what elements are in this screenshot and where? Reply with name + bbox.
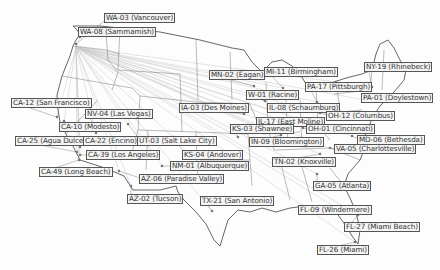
connection-lines [15, 18, 372, 250]
district-label[interactable]: FL-26 (Miami) [317, 245, 369, 255]
district-label[interactable]: OH-12 (Columbus) [326, 111, 395, 121]
district-label[interactable]: NV-04 (Las Vegas) [85, 109, 153, 119]
district-label[interactable]: WA-03 (Vancouver) [104, 13, 175, 23]
marker-dot[interactable] [264, 100, 267, 103]
district-label[interactable]: CA-49 (Long Beach) [39, 167, 113, 177]
district-label[interactable]: CA-12 (San Francisco) [11, 98, 92, 108]
district-label[interactable]: FL-09 (Windermere) [298, 205, 372, 215]
marker-dot[interactable] [78, 159, 81, 162]
district-label[interactable]: FL-27 (Miami Beach) [344, 222, 420, 232]
marker-dot[interactable] [79, 154, 82, 157]
district-label[interactable]: CA-39 (Los Angeles) [86, 150, 160, 160]
district-label[interactable]: IA-03 (Des Moines) [179, 103, 249, 113]
district-label[interactable]: NY-19 (Rhinebeck) [364, 62, 432, 72]
marker-dot[interactable] [243, 113, 246, 116]
marker-dot[interactable] [354, 241, 357, 244]
marker-dot[interactable] [316, 173, 319, 176]
district-label[interactable]: UT-03 (Salt Lake City) [137, 136, 217, 146]
district-label[interactable]: MI-11 (Birmingham) [264, 67, 338, 77]
marker-dot[interactable] [56, 116, 59, 119]
district-label[interactable]: VA-05 (Charlottesville) [334, 144, 416, 154]
marker-dot[interactable] [76, 151, 79, 154]
district-label[interactable]: KS-03 (Shawnee) [230, 124, 294, 134]
district-label[interactable]: PA-17 (Pittsburgh) [305, 82, 372, 92]
marker-dot[interactable] [211, 210, 214, 213]
district-label[interactable]: WA-08 (Sammamish) [78, 27, 156, 37]
marker-dot[interactable] [130, 185, 133, 188]
marker-dot[interactable] [280, 134, 283, 137]
district-label[interactable]: CA-10 (Modesto) [59, 122, 121, 132]
district-label[interactable]: NM-01 (Albuquerque) [170, 161, 249, 171]
marker-dot[interactable] [161, 165, 164, 168]
district-label[interactable]: AZ-02 (Tucson) [127, 194, 183, 204]
district-label[interactable]: AZ-06 (Paradise Valley) [139, 174, 224, 184]
marker-dot[interactable] [351, 135, 354, 138]
district-label[interactable]: MN-02 (Eagan) [209, 70, 265, 80]
district-label[interactable]: IN-09 (Bloomington) [249, 137, 324, 147]
us-map: WA-03 (Vancouver)WA-08 (Sammamish)CA-12 … [0, 0, 440, 270]
marker-dot[interactable] [237, 136, 240, 139]
marker-dot[interactable] [118, 170, 121, 173]
marker-dot[interactable] [95, 132, 98, 135]
marker-dot[interactable] [75, 43, 78, 46]
district-label[interactable]: TN-02 (Knoxville) [272, 157, 336, 167]
marker-dot[interactable] [319, 153, 322, 156]
district-label[interactable]: CA-25 (Agua Dulce) [15, 136, 88, 146]
marker-dot[interactable] [253, 85, 256, 88]
marker-dot[interactable] [127, 123, 130, 126]
district-label[interactable]: W-01 (Racine) [246, 90, 299, 100]
district-label[interactable]: CA-22 (Encino) [83, 136, 139, 146]
district-label[interactable]: GA-05 (Atlanta) [313, 181, 371, 191]
marker-dot[interactable] [302, 127, 305, 130]
marker-dot[interactable] [79, 146, 82, 149]
district-label[interactable]: TX-21 (San Antonio) [200, 196, 274, 206]
district-label[interactable]: OH-01 (Cincinnati) [306, 124, 375, 134]
district-label[interactable]: PA-01 (Doylestown) [361, 93, 433, 103]
marker-dot[interactable] [282, 87, 285, 90]
district-label[interactable]: KS-04 (Andover) [182, 150, 243, 160]
marker-dot[interactable] [329, 147, 332, 150]
